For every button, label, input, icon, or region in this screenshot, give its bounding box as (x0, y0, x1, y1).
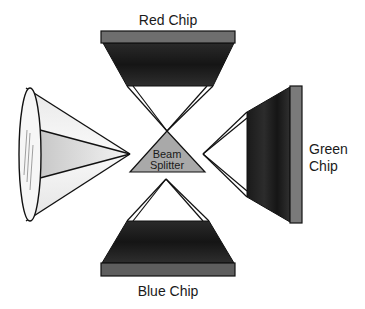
diagram-svg: Beam Splitter Red Chip Blue Chip Green C… (0, 0, 365, 309)
green-chip-label-line2: Chip (309, 158, 338, 174)
diagram-canvas: Beam Splitter Red Chip Blue Chip Green C… (0, 0, 365, 309)
blue-chip (101, 179, 235, 276)
lens-cone (19, 88, 130, 221)
red-chip-label: Red Chip (139, 12, 198, 28)
beam-splitter-label-line2: Splitter (150, 159, 185, 171)
green-chip-label-line1: Green (309, 141, 348, 157)
green-chip (203, 86, 302, 223)
blue-chip-label: Blue Chip (138, 283, 199, 299)
red-chip (101, 31, 235, 131)
lens-face (19, 88, 41, 221)
beam-splitter: Beam Splitter (130, 131, 205, 172)
